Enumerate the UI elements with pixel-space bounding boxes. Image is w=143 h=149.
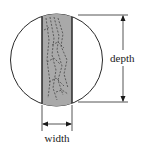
width-label: width — [44, 132, 70, 144]
depth-label: depth — [110, 52, 135, 64]
beam-section — [42, 12, 72, 108]
width-dimension — [42, 105, 72, 131]
log-beam-diagram: depth width — [0, 0, 143, 149]
beam-rectangle — [42, 12, 72, 108]
